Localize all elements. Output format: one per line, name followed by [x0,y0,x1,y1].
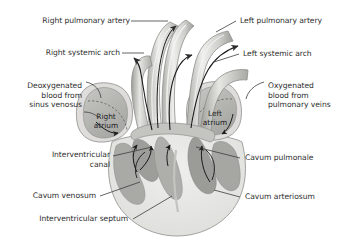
leader-oxygenated [246,82,264,99]
label-left-systemic-arch: Left systemic arch [243,49,349,59]
ventricle-group [109,133,246,236]
label-right-atrium: Right atrium [83,113,129,131]
label-cavum-arteriosum: Cavum arteriosum [245,192,351,202]
leader-left-pulmonary-artery [216,21,236,32]
label-interventricular-septum: Interventricular septum [14,214,128,224]
label-deoxygenated-blood: Deoxygenated blood from sinus venosus [4,81,82,110]
label-oxygenated-blood: Oxygenated blood from pulmonary veins [268,81,352,110]
label-cavum-venosum: Cavum venosum [14,191,96,201]
label-left-pulmonary-artery: Left pulmonary artery [240,16,352,26]
label-left-atrium: Left atrium [192,110,238,128]
label-right-systemic-arch: Right systemic arch [18,48,120,58]
label-right-pulmonary-artery: Right pulmonary artery [18,16,130,26]
diagram-canvas: Right pulmonary artery Left pulmonary ar… [0,0,354,247]
label-cavum-pulmonale: Cavum pulmonale [245,153,351,163]
label-interventricular-canal: Interventricular canal [20,150,110,169]
heart-diagram-svg [0,0,354,247]
